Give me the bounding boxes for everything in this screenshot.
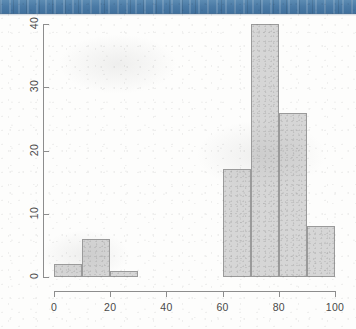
x-axis-tick-label: 40 [150, 301, 182, 313]
histogram-bar[interactable] [223, 169, 251, 277]
histogram-bar[interactable] [110, 271, 138, 277]
x-axis-tick-label: 20 [94, 301, 126, 313]
bar-grain [308, 227, 334, 276]
histogram-chart: 010203040020406080100 [0, 0, 356, 329]
y-axis-tick [43, 151, 49, 152]
x-axis-tick-label: 100 [319, 301, 351, 313]
x-axis-tick [54, 291, 55, 297]
histogram-bar[interactable] [251, 24, 279, 277]
x-axis-tick [335, 291, 336, 297]
y-axis-tick-label: 40 [28, 10, 40, 36]
x-axis-tick-label: 60 [207, 301, 239, 313]
bar-grain [83, 240, 109, 276]
x-axis-tick [166, 291, 167, 297]
y-axis-tick [43, 24, 49, 25]
histogram-bar[interactable] [54, 264, 82, 277]
y-axis-tick-label: 30 [28, 73, 40, 99]
bar-grain [252, 25, 278, 276]
x-axis-tick [110, 291, 111, 297]
bar-grain [224, 170, 250, 276]
bar-grain [280, 114, 306, 276]
bar-grain [111, 272, 137, 276]
x-axis-tick [223, 291, 224, 297]
y-axis-tick-label: 20 [28, 137, 40, 163]
x-axis-tick [279, 291, 280, 297]
x-axis-line [54, 291, 336, 292]
y-axis-tick-label: 10 [28, 200, 40, 226]
histogram-bar[interactable] [307, 226, 335, 277]
y-axis-tick [43, 277, 49, 278]
x-axis-tick-label: 80 [263, 301, 295, 313]
x-axis-tick-label: 0 [38, 301, 70, 313]
page-canvas: 010203040020406080100 [0, 0, 356, 329]
y-axis-tick [43, 87, 49, 88]
bar-grain [55, 265, 81, 276]
y-axis-tick-label: 0 [28, 263, 40, 289]
histogram-bar[interactable] [279, 113, 307, 277]
y-axis-tick [43, 214, 49, 215]
histogram-bar[interactable] [82, 239, 110, 277]
